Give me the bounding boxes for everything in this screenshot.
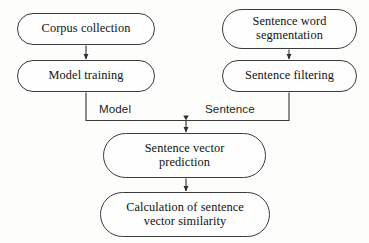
node-calculation-of-sentence-vector-similarity[interactable]: Calculation of sentence vector similarit… [100,192,270,237]
node-corpus-collection-label: Corpus collection [36,22,137,36]
node-sentence-filtering[interactable]: Sentence filtering [222,60,357,92]
edge-label-model: Model [99,102,131,115]
node-corpus-collection[interactable]: Corpus collection [17,13,155,45]
node-model-training[interactable]: Model training [17,60,155,92]
node-sentence-vector-prediction[interactable]: Sentence vector prediction [103,133,266,178]
node-sentence-word-segmentation[interactable]: Sentence word segmentation [222,9,357,49]
junction-arrow-icon [183,116,188,121]
node-sentence-vector-prediction-label: Sentence vector prediction [139,142,231,170]
node-sentence-word-segmentation-label: Sentence word segmentation [246,15,332,43]
node-calculation-of-sentence-vector-similarity-label: Calculation of sentence vector similarit… [120,201,250,229]
node-model-training-label: Model training [43,69,130,83]
node-sentence-filtering-label: Sentence filtering [239,69,340,83]
edge-label-sentence: Sentence [205,102,255,115]
flowchart-canvas: Corpus collection Model training Sentenc… [0,0,369,243]
